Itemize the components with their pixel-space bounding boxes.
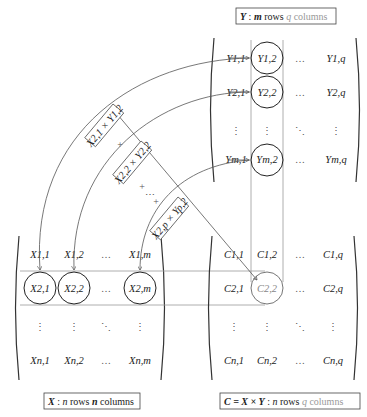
c-caption: C = X × Y : n rows q columns: [220, 393, 360, 409]
svg-text:⋱: ⋱: [295, 321, 305, 332]
svg-text:X2,1: X2,1: [29, 283, 50, 294]
svg-text:C2,q: C2,q: [323, 283, 343, 294]
svg-text:Y1,q: Y1,q: [327, 53, 346, 64]
svg-text:⋱: ⋱: [101, 321, 111, 332]
svg-text:⋮: ⋮: [69, 321, 79, 332]
x-caption: X : n rows n columns: [44, 393, 140, 409]
svg-text:⋮: ⋮: [262, 321, 272, 332]
svg-text:…: …: [295, 154, 305, 165]
svg-text:X1,m: X1,m: [128, 249, 151, 260]
x-matrix: X1,1 X1,2 … X1,m X2,1 X2,2 … X2,m ⋮ ⋮ ⋱ …: [29, 249, 151, 366]
svg-text:⋮: ⋮: [135, 321, 145, 332]
svg-text:C1,1: C1,1: [224, 249, 244, 260]
c-matrix: C1,1 C1,2 … C1,q C2,1 C2,2 … C2,q ⋮ ⋮ ⋱ …: [224, 249, 343, 366]
connecting-arcs: [39, 58, 257, 280]
svg-text:Ym,q: Ym,q: [325, 154, 346, 165]
svg-text:⋮: ⋮: [328, 321, 338, 332]
svg-text:C1,2: C1,2: [257, 249, 278, 260]
svg-text:⋮: ⋮: [35, 321, 45, 332]
plus-sign-1: +: [117, 139, 123, 150]
svg-text:⋮: ⋮: [231, 125, 241, 136]
svg-text:Xn,1: Xn,1: [29, 355, 50, 366]
svg-text:…: …: [295, 249, 305, 260]
y-matrix: Y1,1 Y1,2 … Y1,q Y2,1 Y2,2 … Y2,q ⋮ ⋮ ⋱ …: [225, 53, 346, 165]
svg-text:⋮: ⋮: [229, 321, 239, 332]
svg-text:Ym,2: Ym,2: [256, 154, 278, 165]
svg-text:Ym,1: Ym,1: [225, 154, 246, 165]
svg-text:…: …: [101, 249, 111, 260]
y-caption: Y : m rows q columns: [236, 8, 336, 24]
plus-sign-3: +: [153, 196, 159, 207]
svg-text:⋮: ⋮: [262, 125, 272, 136]
svg-text:C = X × Y : n rows q columns: C = X × Y : n rows q columns: [224, 396, 343, 407]
svg-text:C2,2: C2,2: [257, 283, 278, 294]
svg-text:…: …: [295, 53, 305, 64]
svg-text:…: …: [101, 355, 111, 366]
svg-text:X2,m: X2,m: [128, 283, 151, 294]
svg-text:X2,2: X2,2: [63, 283, 84, 294]
svg-text:…: …: [295, 87, 305, 98]
svg-text:Xn,m: Xn,m: [128, 355, 151, 366]
svg-text:…: …: [295, 283, 305, 294]
svg-text:⋮: ⋮: [331, 125, 341, 136]
svg-text:⋱: ⋱: [295, 125, 305, 136]
svg-text:…: …: [295, 355, 305, 366]
svg-text:Y2,q: Y2,q: [327, 87, 346, 98]
svg-text:Cn,2: Cn,2: [257, 355, 278, 366]
svg-text:Cn,1: Cn,1: [224, 355, 244, 366]
svg-text:…: …: [101, 283, 111, 294]
svg-text:Y : m rows q columns: Y : m rows q columns: [240, 11, 328, 22]
svg-text:Y2,2: Y2,2: [258, 87, 278, 98]
svg-text:C2,1: C2,1: [224, 283, 244, 294]
svg-text:Y1,2: Y1,2: [258, 53, 278, 64]
svg-text:X : n rows n columns: X : n rows n columns: [47, 396, 134, 407]
svg-text:Xn,2: Xn,2: [63, 355, 84, 366]
svg-text:C1,q: C1,q: [323, 249, 343, 260]
svg-text:Cn,q: Cn,q: [323, 355, 343, 366]
